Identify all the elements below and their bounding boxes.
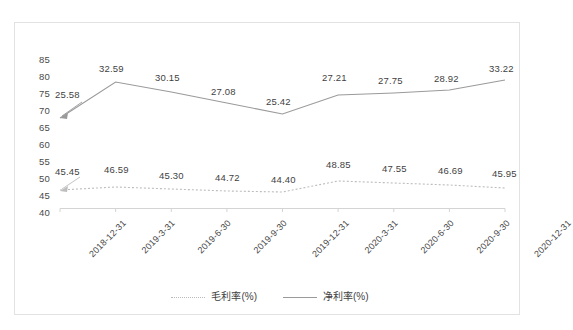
y-axis-tick: 55 [28,156,50,167]
data-label: 30.15 [155,72,180,83]
data-label: 28.92 [434,73,459,84]
data-label: 44.72 [215,172,240,183]
data-label: 33.22 [489,63,514,74]
data-label: 46.69 [438,165,463,176]
x-axis-tick: 2020-12-31 [532,218,573,259]
data-label: 46.59 [104,164,129,175]
data-label: 25.58 [55,89,80,100]
y-axis-tick: 50 [28,173,50,184]
data-label: 25.42 [266,96,291,107]
y-axis-tick: 40 [28,207,50,218]
y-axis-tick: 70 [28,105,50,116]
data-label: 45.95 [492,168,517,179]
data-label: 45.30 [159,170,184,181]
chart-legend: 毛利率(%) 净利率(%) [0,292,540,302]
data-label: 27.21 [322,72,347,83]
data-label: 47.55 [382,163,407,174]
legend-label: 毛利率(%) [211,292,257,302]
y-axis-tick: 80 [28,71,50,82]
y-axis-tick: 65 [28,122,50,133]
legend-item-gross-margin[interactable]: 毛利率(%) [171,292,257,302]
data-label: 45.45 [55,166,80,177]
legend-item-net-margin[interactable]: 净利率(%) [283,292,369,302]
data-label: 27.08 [211,86,236,97]
data-label: 44.40 [271,174,296,185]
dotted-line-icon [171,297,205,298]
data-label: 27.75 [378,75,403,86]
data-label: 32.59 [99,63,124,74]
data-label: 48.85 [326,159,351,170]
y-axis-tick: 75 [28,88,50,99]
legend-label: 净利率(%) [323,292,369,302]
solid-line-icon [283,297,317,298]
y-axis-tick: 60 [28,139,50,150]
y-axis-tick: 45 [28,190,50,201]
y-axis-tick: 85 [28,54,50,65]
